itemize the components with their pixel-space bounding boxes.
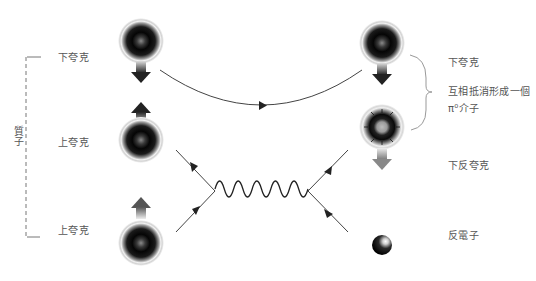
label-down-quark-right: 下夸克	[448, 57, 479, 69]
arrow-right-icon	[259, 101, 267, 110]
annotation-line-1: 互相抵消形成一個	[448, 86, 530, 98]
arrow-icon	[324, 209, 333, 218]
diagram-canvas: 質子 下夸克 上夸克 上夸克 下夸克 互相抵消形成一個 π⁰介子 下反夸克 反電…	[0, 0, 536, 281]
spin-up-arrow-icon	[131, 197, 151, 208]
spin-down-arrow-icon	[377, 63, 387, 75]
positron	[372, 235, 392, 255]
label-down-quark-left: 下夸克	[58, 52, 89, 64]
label-down-antiquark-right: 下反夸克	[448, 160, 489, 172]
spin-up-arrow-icon	[131, 102, 151, 113]
proton-label: 質子	[13, 127, 24, 147]
feynman-vertex-left	[176, 150, 215, 232]
feynman-vertex-right	[308, 150, 348, 232]
up-quark-left-bottom	[118, 197, 164, 266]
down-quark-right	[359, 20, 405, 85]
up-quark-left-middle	[118, 102, 164, 163]
label-up-quark-left-bottom: 上夸克	[58, 225, 89, 237]
down-antiquark-right	[359, 104, 405, 170]
quark-propagator-arc	[160, 70, 362, 110]
proton-bracket	[26, 57, 41, 237]
annotation-line-2: π⁰介子	[448, 103, 479, 115]
arrow-icon	[190, 162, 198, 172]
boson-wavy-line	[215, 181, 308, 197]
spin-down-arrow-icon	[136, 61, 146, 73]
label-up-quark-left-middle: 上夸克	[58, 137, 89, 149]
label-positron: 反電子	[448, 230, 479, 242]
down-quark-left	[118, 18, 164, 83]
spin-down-arrow-icon	[377, 148, 387, 160]
annotation-brace	[410, 55, 432, 130]
